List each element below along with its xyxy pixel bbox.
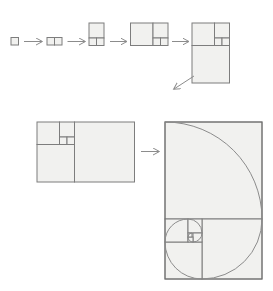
fib-square-13	[165, 122, 262, 219]
fib-square-2	[153, 23, 168, 38]
fib-square-1	[47, 38, 55, 46]
fib-square-1	[97, 38, 105, 46]
fib-square-8	[75, 122, 135, 182]
fib-square-1	[161, 38, 169, 46]
stage-2-two-squares	[47, 38, 62, 46]
fib-square-1	[67, 137, 75, 145]
arrow-5-diagonal-icon	[174, 76, 194, 89]
stage-6-13x8	[37, 122, 135, 182]
fib-square-3	[192, 23, 215, 46]
fib-square-2	[89, 23, 104, 38]
fib-square-5	[192, 46, 230, 84]
diagram-canvas	[0, 0, 273, 291]
stage-4-5x3	[131, 23, 169, 46]
fib-square-1	[222, 38, 230, 46]
stage-5-5x8	[192, 23, 230, 83]
fib-square-2	[215, 23, 230, 38]
fibonacci-golden-rectangle-diagram	[0, 0, 273, 291]
stage-3-2x3	[89, 23, 104, 46]
fib-square-1	[153, 38, 161, 46]
fib-square-8	[202, 219, 262, 279]
fib-square-5	[165, 242, 202, 279]
construction-stages	[11, 23, 262, 279]
stage-1-unit-square	[11, 38, 19, 46]
fib-square-3	[131, 23, 154, 46]
fib-square-2	[60, 122, 75, 137]
stage-7-golden-rectangle-spiral	[165, 122, 262, 279]
fib-square-5	[37, 145, 75, 183]
fib-square-1	[11, 38, 19, 46]
fib-square-1	[215, 38, 223, 46]
fib-square-1	[55, 38, 63, 46]
fib-square-3	[37, 122, 60, 145]
fib-square-1	[60, 137, 68, 145]
fib-square-1	[89, 38, 97, 46]
